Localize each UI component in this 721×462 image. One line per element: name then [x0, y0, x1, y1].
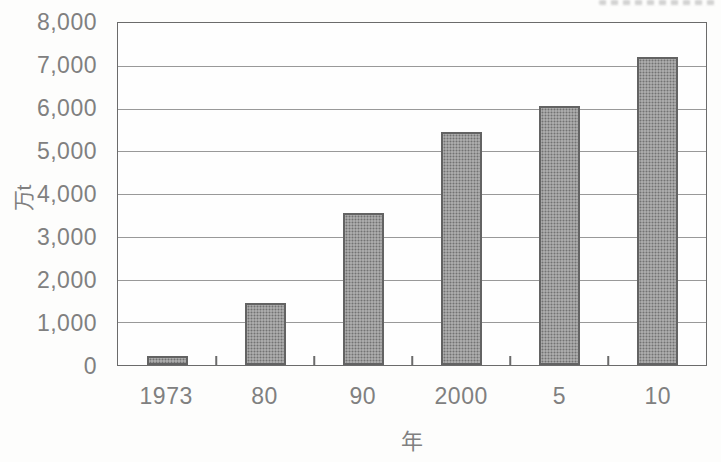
- y-tick-label-1,000: 1,000: [37, 310, 97, 337]
- x-tick-label-2000: 2000: [412, 383, 510, 410]
- plot-area: [117, 22, 707, 366]
- x-tick-mark-3: [411, 356, 413, 365]
- x-axis-labels: 197380902000510: [117, 383, 707, 410]
- x-tick-mark-1: [215, 356, 217, 365]
- y-tick-label-6,000: 6,000: [37, 95, 97, 122]
- cropped-print-artifact: [599, 0, 717, 5]
- x-tick-label-5: 5: [510, 383, 608, 410]
- y-tick-label-8,000: 8,000: [37, 9, 97, 36]
- y-tick-label-7,000: 7,000: [37, 52, 97, 79]
- x-tick-mark-5: [607, 356, 609, 365]
- x-ticks: [118, 23, 706, 365]
- y-axis-labels: 01,0002,0003,0004,0005,0006,0007,0008,00…: [0, 22, 107, 366]
- x-tick-label-80: 80: [215, 383, 313, 410]
- x-tick-label-90: 90: [314, 383, 412, 410]
- x-axis-unit-label: 年: [117, 423, 707, 455]
- bar-chart-figure: 万t 01,0002,0003,0004,0005,0006,0007,0008…: [0, 0, 721, 462]
- y-tick-label-2,000: 2,000: [37, 267, 97, 294]
- x-tick-mark-2: [313, 356, 315, 365]
- y-tick-label-3,000: 3,000: [37, 224, 97, 251]
- x-tick-label-10: 10: [609, 383, 707, 410]
- y-tick-label-0: 0: [84, 353, 97, 380]
- x-tick-mark-4: [509, 356, 511, 365]
- y-tick-label-5,000: 5,000: [37, 138, 97, 165]
- x-tick-label-1973: 1973: [117, 383, 215, 410]
- y-tick-label-4,000: 4,000: [37, 181, 97, 208]
